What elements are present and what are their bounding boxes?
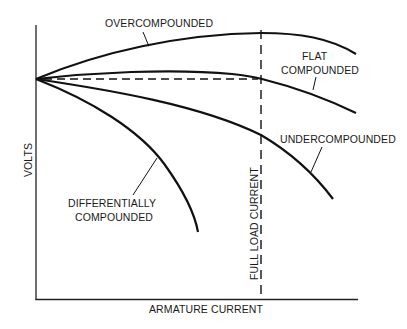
overcompounded-leader [143, 32, 148, 44]
dc-generator-characteristic-diagram: OVERCOMPOUNDED FLAT COMPOUNDED UNDERCOMP… [0, 0, 407, 329]
y-axis-label: VOLTS [22, 143, 34, 177]
full-load-current-label: FULL LOAD CURRENT [248, 167, 260, 280]
undercompounded-leader [311, 147, 322, 172]
flat-compounded-curve [36, 71, 356, 113]
differentially-compounded-curve [36, 79, 198, 232]
overcompounded-label: OVERCOMPOUNDED [105, 17, 213, 29]
flat-compounded-leader [313, 77, 316, 90]
undercompounded-label: UNDERCOMPOUNDED [280, 133, 396, 145]
flat-compounded-label-line2: COMPOUNDED [281, 64, 359, 76]
flat-compounded-label-line1: FLAT [302, 50, 328, 62]
x-axis-label: ARMATURE CURRENT [149, 303, 263, 315]
differentially-compounded-leader [133, 158, 157, 195]
differentially-compounded-label-line2: COMPOUNDED [75, 211, 153, 223]
differentially-compounded-label-line1: DIFFERENTIALLY [68, 197, 156, 209]
